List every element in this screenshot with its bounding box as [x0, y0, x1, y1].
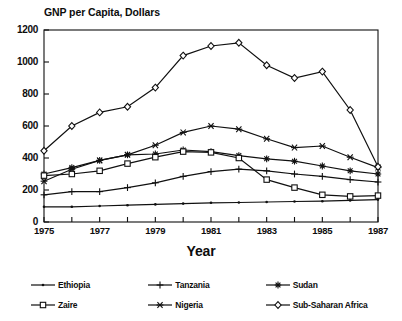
legend-item-ethiopia[interactable]: Ethiopia	[30, 278, 147, 292]
legend-label: Ethiopia	[58, 280, 90, 290]
series-tanzania	[41, 166, 382, 198]
data-point-marker	[97, 109, 103, 116]
data-point-marker	[321, 165, 324, 168]
data-point-marker	[42, 284, 45, 287]
data-point-marker	[43, 206, 46, 209]
data-point-marker	[265, 201, 268, 204]
x-tick-label: 1987	[358, 225, 398, 236]
legend-row: ZaireNigeriaSub-Saharan Africa	[30, 295, 382, 315]
legend-item-zaire[interactable]: Zaire	[30, 298, 147, 312]
legend-label: Tanzania	[175, 280, 209, 290]
legend-item-sudan[interactable]: Sudan	[265, 278, 382, 292]
legend-marker	[42, 284, 45, 287]
y-tick-label: 1000	[4, 56, 38, 67]
data-point-marker	[236, 155, 241, 160]
chart-svg	[0, 0, 402, 321]
plot-area	[0, 0, 402, 321]
legend-row: EthiopiaTanzaniaSudan	[30, 275, 382, 295]
data-point-marker	[349, 169, 352, 172]
data-point-marker	[40, 302, 45, 307]
x-tick-label: 1981	[191, 225, 231, 236]
data-point-marker	[182, 202, 185, 205]
x-tick-label: 1983	[247, 225, 287, 236]
data-point-marker	[97, 168, 102, 173]
data-point-marker	[265, 157, 268, 160]
legend-label: Sudan	[293, 280, 318, 290]
data-point-marker	[375, 193, 380, 198]
legend-marker	[275, 302, 281, 309]
legend-symbol-plus-icon	[147, 278, 173, 292]
legend-label: Sub-Saharan Africa	[293, 300, 368, 310]
y-tick-label: 600	[4, 120, 38, 131]
y-tick-label: 1200	[4, 24, 38, 35]
data-point-marker	[126, 204, 129, 207]
legend-marker	[40, 302, 45, 307]
legend-label: Zaire	[58, 300, 77, 310]
data-point-marker	[41, 173, 46, 178]
legend-item-sub-saharan-africa[interactable]: Sub-Saharan Africa	[265, 298, 382, 312]
series-ethiopia	[43, 198, 380, 208]
x-tick-label: 1977	[80, 225, 120, 236]
data-point-marker	[208, 150, 213, 155]
data-point-marker	[320, 192, 325, 197]
data-point-marker	[321, 200, 324, 203]
chart-legend: EthiopiaTanzaniaSudanZaireNigeriaSub-Sah…	[30, 275, 382, 315]
data-point-marker	[71, 206, 74, 209]
data-point-marker	[153, 155, 158, 160]
legend-item-tanzania[interactable]: Tanzania	[147, 278, 264, 292]
x-axis-label: Year	[0, 243, 402, 259]
legend-symbol-asterisk-icon	[147, 298, 173, 312]
data-point-marker	[264, 177, 269, 182]
data-point-marker	[154, 203, 157, 206]
data-point-marker	[293, 160, 296, 163]
y-tick-label: 800	[4, 88, 38, 99]
data-point-marker	[208, 43, 214, 50]
data-point-marker	[238, 201, 241, 204]
legend-item-nigeria[interactable]: Nigeria	[147, 298, 264, 312]
data-point-marker	[180, 149, 185, 154]
data-point-marker	[293, 200, 296, 203]
data-point-marker	[124, 103, 130, 110]
x-tick-label: 1979	[135, 225, 175, 236]
legend-marker	[274, 282, 280, 289]
data-point-marker	[347, 194, 352, 199]
data-point-marker	[377, 173, 380, 176]
data-point-marker	[125, 161, 130, 166]
data-point-marker	[276, 284, 279, 287]
data-point-marker	[98, 205, 101, 208]
y-tick-label: 400	[4, 152, 38, 163]
chart-figure: GNP per Capita, Dollars 0200400600800100…	[0, 0, 402, 321]
legend-symbol-diamond-icon	[265, 298, 291, 312]
legend-symbol-dot-icon	[30, 278, 56, 292]
legend-marker	[157, 282, 164, 289]
data-point-marker	[210, 202, 213, 205]
y-tick-label: 200	[4, 184, 38, 195]
legend-label: Nigeria	[175, 300, 202, 310]
data-point-marker	[292, 185, 297, 190]
legend-symbol-square-icon	[30, 298, 56, 312]
x-tick-label: 1985	[302, 225, 342, 236]
x-tick-label: 1975	[24, 225, 64, 236]
data-point-marker	[291, 75, 297, 82]
legend-marker	[157, 302, 164, 308]
data-point-marker	[275, 302, 281, 309]
legend-symbol-star-icon	[265, 278, 291, 292]
